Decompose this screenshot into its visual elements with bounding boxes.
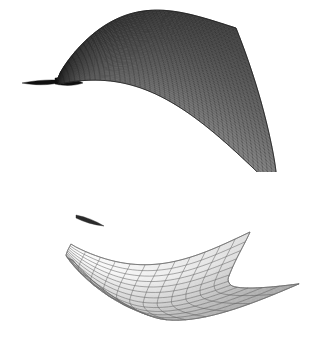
dark-swallowtail-surface-svg (0, 0, 309, 172)
figure-page: Upper surface Lower surface (0, 0, 309, 344)
figure-panel-bottom: Lower surface (0, 172, 309, 344)
figure-panel-top: Upper surface (0, 0, 309, 172)
surface-faces-bottom (66, 232, 299, 320)
cusp-tail-bottom (76, 215, 104, 226)
light-swallowtail-surface-svg (0, 172, 309, 344)
